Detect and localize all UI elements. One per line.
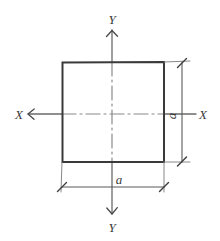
- x-axis-label-right: X: [198, 107, 208, 122]
- y-axis-label-top: Y: [108, 12, 117, 27]
- square-outline: [63, 62, 165, 162]
- width-dimension-group: a: [58, 162, 169, 192]
- engineering-figure: a a Y Y X X: [0, 0, 220, 241]
- height-dimension-group: a: [164, 59, 190, 167]
- height-dimension-label: a: [164, 112, 179, 119]
- square-outline-group: [63, 62, 165, 162]
- figure-canvas: a a Y Y X X: [0, 0, 220, 241]
- y-axis-label-bottom: Y: [108, 220, 117, 235]
- height-dim-extension-top: [164, 61, 190, 62]
- x-axis-label-left: X: [14, 107, 24, 122]
- width-dimension-label: a: [116, 172, 123, 187]
